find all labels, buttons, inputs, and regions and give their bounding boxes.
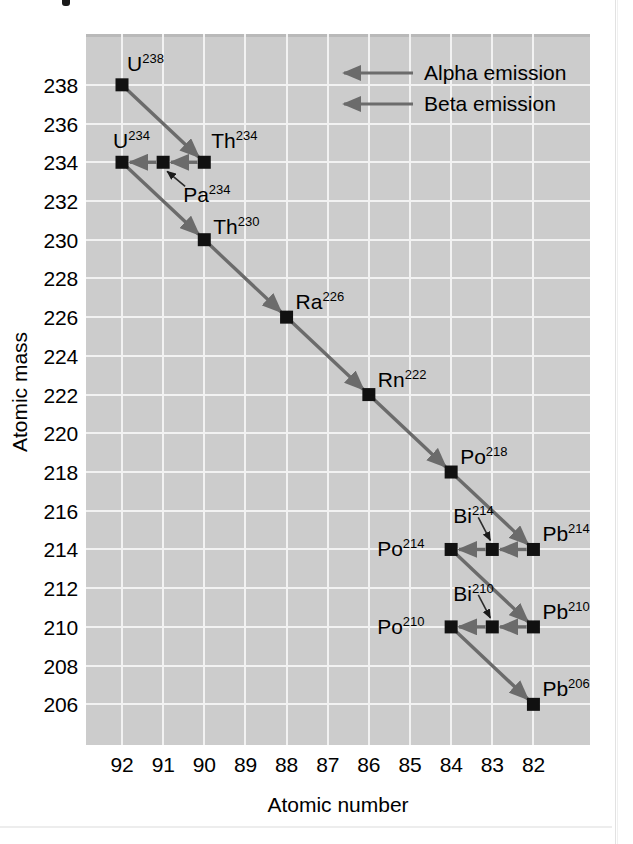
nuclide-label-po218: Po218: [460, 446, 507, 467]
element-symbol: U: [113, 129, 128, 152]
y-tick-label: 218: [44, 462, 78, 483]
element-symbol: Bi: [453, 504, 472, 527]
nuclide-label-pa234: Pa234: [183, 184, 230, 205]
y-tick-label: 230: [44, 230, 78, 251]
x-axis-title: Atomic number: [86, 793, 590, 817]
y-tick-label: 222: [44, 385, 78, 406]
element-symbol: Po: [460, 445, 486, 468]
x-tick-label: 84: [431, 754, 471, 775]
x-tick-label: 90: [184, 754, 224, 775]
y-tick-label: 226: [44, 307, 78, 328]
y-tick-label: 232: [44, 191, 78, 212]
page-edge-artifact: [615, 0, 616, 844]
nuclide-label-th234: Th234: [211, 130, 257, 151]
gridline-vertical: [286, 34, 288, 745]
mass-number: 226: [322, 289, 344, 304]
element-symbol: Pb: [542, 600, 568, 623]
x-tick-label: 89: [225, 754, 265, 775]
x-tick-label: 85: [390, 754, 430, 775]
mass-number: 234: [209, 182, 231, 197]
x-tick-label: 87: [308, 754, 348, 775]
y-tick-label: 224: [44, 346, 78, 367]
nuclide-label-bi210: Bi210: [453, 583, 493, 604]
mass-number: 234: [128, 128, 150, 143]
element-symbol: Bi: [453, 582, 472, 605]
nuclide-label-po214: Po214: [377, 538, 424, 559]
nuclide-label-pb210: Pb210: [542, 601, 589, 622]
nuclide-label-u238: U238: [127, 53, 164, 74]
gridline-vertical: [368, 34, 370, 745]
nuclide-label-u234: U234: [113, 130, 150, 151]
nuclide-label-rn222: Rn222: [378, 369, 427, 390]
element-symbol: Ra: [296, 290, 323, 313]
y-tick-label: 212: [44, 578, 78, 599]
element-symbol: Po: [377, 537, 403, 560]
gridline-vertical: [162, 34, 164, 745]
element-symbol: Th: [211, 129, 236, 152]
gridline-vertical: [203, 34, 205, 745]
mass-number: 206: [568, 676, 590, 691]
mass-number: 218: [486, 444, 508, 459]
y-tick-label: 236: [44, 114, 78, 135]
element-symbol: Th: [213, 215, 238, 238]
nuclide-label-ra226: Ra226: [296, 291, 345, 312]
nuclide-label-pb206: Pb206: [542, 678, 589, 699]
legend-label-alpha: Alpha emission: [424, 62, 566, 83]
nuclide-label-bi214: Bi214: [453, 505, 493, 526]
y-tick-label: 214: [44, 539, 78, 560]
element-symbol: Pa: [183, 183, 209, 206]
y-tick-label: 220: [44, 423, 78, 444]
mass-number: 210: [403, 614, 425, 629]
y-tick-label: 216: [44, 501, 78, 522]
element-symbol: Po: [377, 615, 403, 638]
x-tick-label: 86: [349, 754, 389, 775]
x-tick-label: 88: [267, 754, 307, 775]
element-symbol: Rn: [378, 368, 405, 391]
x-tick-label: 82: [513, 754, 553, 775]
mass-number: 222: [405, 367, 427, 382]
mass-number: 210: [568, 599, 590, 614]
gridline-vertical: [327, 34, 329, 745]
mass-number: 214: [403, 536, 425, 551]
y-tick-label: 206: [44, 694, 78, 715]
mass-number: 238: [142, 51, 164, 66]
gridline-vertical: [450, 34, 452, 745]
y-tick-label: 208: [44, 656, 78, 677]
mass-number: 234: [236, 128, 258, 143]
radioactive-decay-series-figure: 2382362342322302282262242222202182162142…: [0, 0, 633, 844]
x-tick-label: 92: [102, 754, 142, 775]
legend-label-beta: Beta emission: [424, 93, 556, 114]
y-tick-label: 234: [44, 152, 78, 173]
y-tick-label: 210: [44, 617, 78, 638]
y-tick-label: 228: [44, 268, 78, 289]
element-symbol: U: [127, 52, 142, 75]
nuclide-label-po210: Po210: [377, 616, 424, 637]
plot-area: [86, 34, 590, 745]
page-bottom-edge-artifact: [0, 826, 612, 828]
gridline-vertical: [491, 34, 493, 745]
y-tick-label: 238: [44, 75, 78, 96]
nuclide-label-th230: Th230: [213, 216, 259, 237]
x-tick-label: 91: [143, 754, 183, 775]
element-symbol: Pb: [542, 522, 568, 545]
y-axis-title: Atomic mass: [8, 312, 32, 472]
mass-number: 214: [472, 503, 494, 518]
element-symbol: Pb: [542, 677, 568, 700]
mass-number: 214: [568, 521, 590, 536]
gridline-vertical: [532, 34, 534, 745]
page-edge-artifact-2: [617, 0, 618, 844]
x-tick-label: 83: [472, 754, 512, 775]
nuclide-label-pb214: Pb214: [542, 523, 589, 544]
mass-number: 210: [472, 581, 494, 596]
mass-number: 230: [238, 214, 260, 229]
